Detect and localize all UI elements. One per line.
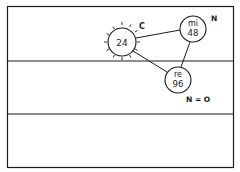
node-re: re 96 N = O [165, 67, 210, 104]
node-label: C [139, 22, 145, 31]
node-label: N = O [186, 95, 210, 104]
node-mi: mi 48 N [180, 14, 217, 42]
node-value: 24 [116, 38, 128, 48]
node-name: re [174, 70, 182, 79]
node-name: mi [188, 19, 198, 28]
diagram-canvas: 24 C mi 48 N re 96 N = O [0, 0, 240, 172]
edge-c-mi [136, 30, 180, 38]
edge-mi-re [181, 42, 190, 67]
node-value: 96 [173, 79, 184, 89]
node-label: N [211, 14, 217, 23]
node-value: 48 [188, 28, 199, 38]
